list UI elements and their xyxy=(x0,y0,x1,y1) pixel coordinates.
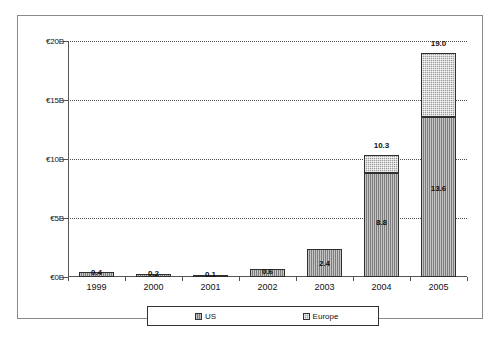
x-axis-label-2004: 2004 xyxy=(353,282,410,292)
x-axis-label-2000: 2000 xyxy=(125,282,182,292)
bar-total-label-2005: 19.0 xyxy=(421,40,456,48)
x-axis-label-2003: 2003 xyxy=(296,282,353,292)
x-tick-5 xyxy=(353,277,354,281)
us-swatch-icon xyxy=(195,313,202,320)
plot-area: €20B €15B €10B €5B €0B 0.4 0.2 0.1 xyxy=(68,41,467,277)
x-axis-label-2005: 2005 xyxy=(410,282,467,292)
x-tick-2 xyxy=(182,277,183,281)
legend-label-us: US xyxy=(205,312,216,321)
y-axis-line xyxy=(68,41,69,277)
y-axis-label-5: €5B xyxy=(18,214,64,223)
y-axis-label-0: €0B xyxy=(18,273,64,282)
bar-segment-europe-2004[interactable] xyxy=(364,155,399,173)
x-tick-6 xyxy=(410,277,411,281)
bar-label-us-2002: 0.6 xyxy=(250,268,285,276)
bar-group-2003[interactable]: 2.4 xyxy=(307,41,342,277)
bar-group-2004[interactable]: 8.8 10.3 xyxy=(364,41,399,277)
bar-group-2001[interactable]: 0.1 xyxy=(193,41,228,277)
bar-group-2000[interactable]: 0.2 xyxy=(136,41,171,277)
europe-swatch-icon xyxy=(303,313,310,320)
bar-total-label-2004: 10.3 xyxy=(364,142,399,150)
bar-label-us-1999: 0.4 xyxy=(79,269,114,277)
x-tick-7 xyxy=(467,277,468,281)
x-axis-label-2002: 2002 xyxy=(239,282,296,292)
bar-label-us-2000: 0.2 xyxy=(136,270,171,278)
bar-group-2005[interactable]: 13.6 19.0 xyxy=(421,41,456,277)
legend-item-us[interactable]: US xyxy=(148,312,263,321)
bar-label-us-2001: 0.1 xyxy=(193,271,228,279)
y-axis-label-15: €15B xyxy=(18,96,64,105)
y-axis-label-10: €10B xyxy=(18,155,64,164)
chart-legend: US Europe xyxy=(147,306,379,326)
x-axis-label-1999: 1999 xyxy=(68,282,125,292)
legend-item-europe[interactable]: Europe xyxy=(263,312,378,321)
bar-label-us-2004: 8.8 xyxy=(364,219,399,227)
x-tick-4 xyxy=(296,277,297,281)
x-tick-3 xyxy=(239,277,240,281)
bar-group-2002[interactable]: 0.6 xyxy=(250,41,285,277)
chart-frame: €20B €15B €10B €5B €0B 0.4 0.2 0.1 xyxy=(17,15,483,319)
x-axis-label-2001: 2001 xyxy=(182,282,239,292)
figure-caption xyxy=(18,331,258,342)
x-tick-1 xyxy=(125,277,126,281)
bar-label-us-2005: 13.6 xyxy=(421,185,456,193)
bar-group-1999[interactable]: 0.4 xyxy=(79,41,114,277)
x-tick-0 xyxy=(68,277,69,281)
bar-segment-europe-2005[interactable] xyxy=(421,53,456,117)
bar-label-us-2003: 2.4 xyxy=(307,260,342,268)
legend-label-europe: Europe xyxy=(313,312,339,321)
y-axis-label-20: €20B xyxy=(18,37,64,46)
bar-segment-us-2005[interactable] xyxy=(421,117,456,277)
